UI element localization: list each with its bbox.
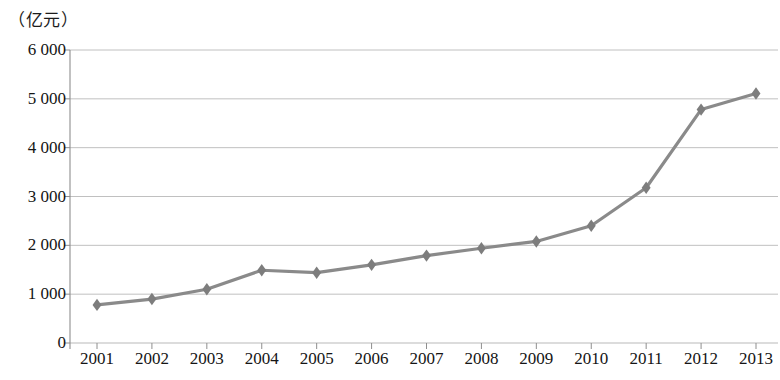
data-point-marker xyxy=(422,249,431,261)
data-point-marker xyxy=(312,266,321,278)
data-point-marker xyxy=(202,283,211,295)
y-axis-tick-label: 3 000 xyxy=(0,188,66,205)
data-point-marker xyxy=(477,242,486,254)
x-axis-tick-label: 2007 xyxy=(397,350,457,368)
y-axis-tick-label: 6 000 xyxy=(0,41,66,58)
series-line-group xyxy=(97,93,756,304)
x-axis-tick-label: 2009 xyxy=(506,350,566,368)
series-markers-group xyxy=(93,87,761,311)
x-axis-tick-label: 2011 xyxy=(616,350,676,368)
y-axis-tick-label: 4 000 xyxy=(0,139,66,156)
x-axis-tick-label: 2010 xyxy=(561,350,621,368)
data-point-marker xyxy=(257,264,266,276)
data-point-marker xyxy=(93,299,102,311)
gridlines-group xyxy=(64,50,778,343)
x-axis-tick-label: 2008 xyxy=(451,350,511,368)
y-axis-tick-label: 1 000 xyxy=(0,285,66,302)
x-axis-tick-label: 2012 xyxy=(671,350,731,368)
x-axis-tick-label: 2004 xyxy=(232,350,292,368)
data-point-marker xyxy=(752,87,761,99)
y-axis-tick-label: 2 000 xyxy=(0,236,66,253)
x-axis-tick-label: 2002 xyxy=(122,350,182,368)
x-axis-tick-label: 2003 xyxy=(177,350,237,368)
data-point-marker xyxy=(587,220,596,232)
chart-canvas xyxy=(0,0,780,380)
data-point-marker xyxy=(367,259,376,271)
y-axis-tick-label: 0 xyxy=(0,334,66,351)
y-axis-tick-label: 5 000 xyxy=(0,90,66,107)
line-chart: （亿元） 01 0002 0003 0004 0005 0006 000 200… xyxy=(0,0,780,380)
x-axis-tick-label: 2005 xyxy=(287,350,347,368)
series-line xyxy=(97,93,756,304)
x-axis-tick-label: 2001 xyxy=(67,350,127,368)
data-point-marker xyxy=(147,293,156,305)
x-axis-tick-label: 2013 xyxy=(726,350,780,368)
x-axis-tick-label: 2006 xyxy=(342,350,402,368)
